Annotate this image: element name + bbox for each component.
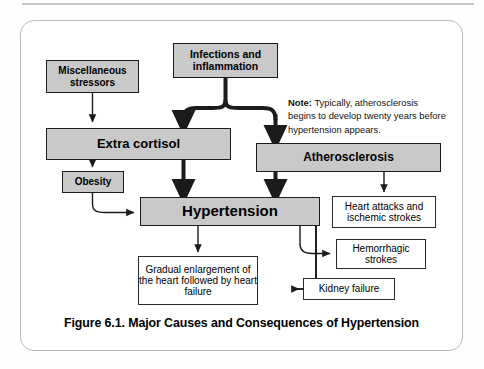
node-heart-attacks-and-ischemic-strokes: Heart attacks and ischemic strokes [332, 196, 436, 228]
node-atherosclerosis: Atherosclerosis [256, 143, 441, 172]
node-extra-cortisol: Extra cortisol [46, 128, 231, 160]
top-divider-rule [22, 3, 474, 5]
node-hypertension: Hypertension [140, 197, 320, 226]
node-gradual-enlargement-of-heart: Gradual enlargement of the heart followe… [138, 256, 258, 305]
figure-caption: Figure 6.1. Major Causes and Consequence… [20, 316, 463, 330]
note-annotation: Note: Typically, atherosclerosis begins … [288, 96, 448, 136]
note-label: Note: [288, 97, 312, 108]
node-miscellaneous-stressors: Miscellaneous stressors [46, 60, 139, 93]
node-obesity: Obesity [62, 171, 124, 193]
node-kidney-failure: Kidney failure [303, 278, 395, 300]
figure-diagram: Miscellaneous stressors Infections and i… [0, 0, 484, 369]
note-body: Typically, atherosclerosis begins to dev… [288, 97, 446, 135]
node-infections-and-inflammation: Infections and inflammation [173, 43, 278, 78]
node-hemorrhagic-strokes: Hemorrhagic strokes [336, 239, 426, 269]
